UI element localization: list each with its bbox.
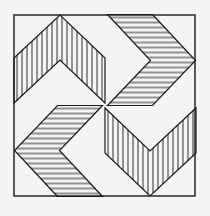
arm-top-left [14, 15, 105, 103]
arm-bottom-right [105, 108, 196, 196]
arm-bottom-left [15, 106, 103, 197]
arm-top-right [108, 15, 196, 106]
pinwheel-chevron-diagram [0, 0, 210, 216]
